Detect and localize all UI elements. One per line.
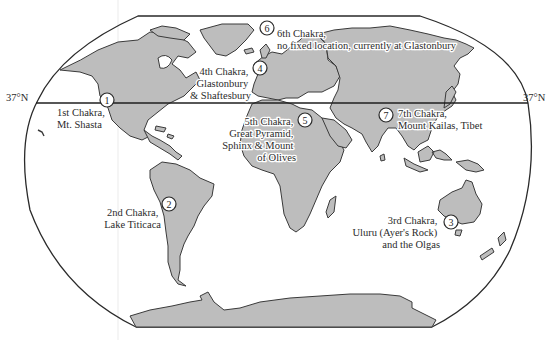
marker-number: 6 [265, 23, 270, 34]
chakra-4-marker[interactable]: 4 [253, 61, 267, 75]
central-america [144, 130, 182, 160]
chakra-7-marker[interactable]: 7 [379, 108, 393, 122]
chakra-4-label: 4th Chakra, Glastonbury & Shaftesbury [190, 66, 252, 101]
southeast-asia-islands [404, 146, 452, 172]
tasmania [455, 230, 462, 236]
marker-number: 7 [384, 110, 389, 121]
marker-number: 1 [105, 95, 110, 106]
chakra-3-marker[interactable]: 3 [444, 215, 458, 229]
latitude-label-right: 37°N [523, 92, 546, 103]
latitude-label-left: 37°N [6, 92, 29, 103]
madagascar [326, 196, 336, 218]
antarctica [130, 292, 436, 327]
sri-lanka [380, 154, 385, 161]
chakra-2-label: 2nd Chakra, Lake Titicaca [104, 207, 161, 230]
chakra-1-marker[interactable]: 1 [100, 93, 114, 107]
new-guinea [456, 160, 484, 172]
iceland [244, 48, 254, 54]
chakra-3-label: 3rd Chakra, Uluru (Ayer's Rock) and the … [352, 215, 440, 250]
chakra-1-label: 1st Chakra, Mt. Shasta [57, 107, 107, 130]
chakra-5-marker[interactable]: 5 [298, 113, 312, 127]
chakra-2-marker[interactable]: 2 [162, 197, 176, 211]
australia [438, 180, 482, 224]
hawaii-islands [38, 130, 44, 136]
world-chakra-map: 37°N 37°N 1 1st Chakra, Mt. Shasta 2 2nd… [0, 0, 556, 340]
chakra-5-label: 5th Chakra, Great Pyramid, Sphinx & Moun… [222, 116, 296, 163]
chakra-6-marker[interactable]: 6 [260, 21, 274, 35]
marker-number: 2 [167, 199, 172, 210]
caribbean-islands [155, 126, 174, 139]
marker-number: 5 [303, 115, 308, 126]
new-zealand [480, 232, 506, 260]
chakra-7-label: 7th Chakra, Mount Kailas, Tibet [398, 108, 482, 131]
marker-number: 3 [449, 217, 454, 228]
marker-number: 4 [258, 63, 263, 74]
